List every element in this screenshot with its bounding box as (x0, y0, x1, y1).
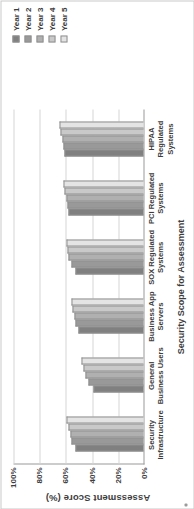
bar (71, 298, 143, 305)
bar (60, 128, 143, 135)
bar (68, 423, 143, 430)
bar (62, 135, 143, 142)
legend-swatch-icon (12, 35, 19, 42)
bar (75, 267, 143, 274)
legend-item[interactable]: Year 1 (11, 7, 20, 42)
x-tick-label: Security Infrastructure (146, 405, 176, 464)
plot-area (13, 109, 144, 464)
bar (78, 326, 144, 333)
legend-item[interactable]: Year 3 (35, 7, 44, 42)
bar (64, 149, 143, 156)
x-axis-title: Security Scope for Assessment (175, 109, 185, 464)
legend-swatch-icon (48, 35, 55, 42)
y-tick-label: 60% (61, 467, 70, 483)
legend-swatch-icon (36, 35, 43, 42)
bar (63, 180, 143, 187)
legend-label: Year 1 (11, 7, 20, 31)
legend-swatch-icon (24, 35, 31, 42)
bar-group (13, 227, 143, 286)
bar (72, 305, 143, 312)
y-tick-label: 20% (113, 467, 122, 483)
y-tick-label: 0% (140, 467, 149, 479)
bar (71, 437, 143, 444)
bar (66, 416, 143, 423)
bar (93, 385, 143, 392)
bar (70, 430, 143, 437)
bar (59, 121, 143, 128)
y-tick-label: 80% (35, 467, 44, 483)
legend-item[interactable]: Year 4 (47, 7, 56, 42)
x-tick-label: Business App Servers (146, 286, 176, 345)
bar-groups (13, 109, 143, 463)
bar (85, 371, 143, 378)
bar (64, 187, 143, 194)
bar (88, 378, 143, 385)
legend: Year 1Year 2Year 3Year 4Year 5 (11, 7, 68, 42)
y-tick-label: 100% (9, 467, 18, 487)
bar-group (13, 404, 143, 463)
bar (74, 312, 143, 319)
x-tick-label: SOX Regulated Systems (146, 227, 176, 286)
chart-screenshot: Assessment Score (%) 0%20%40%60%80%100% … (0, 0, 194, 509)
bar-group (13, 109, 143, 168)
bar (63, 142, 143, 149)
bar (75, 319, 143, 326)
bar (83, 364, 143, 371)
y-axis-title: Assessment Score (%) (1, 490, 193, 506)
y-tick-label: 40% (87, 467, 96, 483)
bar (71, 260, 143, 267)
legend-label: Year 2 (23, 7, 32, 31)
bar (68, 208, 143, 215)
bar (68, 253, 143, 260)
legend-item[interactable]: Year 5 (59, 7, 68, 42)
rotated-chart-canvas: Assessment Score (%) 0%20%40%60%80%100% … (0, 0, 194, 509)
legend-label: Year 4 (47, 7, 56, 31)
bar-group (13, 168, 143, 227)
bar (66, 194, 143, 201)
bar (81, 357, 143, 364)
legend-label: Year 5 (59, 7, 68, 31)
y-axis-tick-labels: 0%20%40%60%80%100% (13, 465, 144, 491)
chart-frame: Assessment Score (%) 0%20%40%60%80%100% … (0, 0, 194, 509)
bar (67, 201, 143, 208)
y-axis-title-text: Assessment Score (%) (45, 493, 149, 504)
legend-label: Year 3 (35, 7, 44, 31)
bar (66, 239, 143, 246)
legend-swatch-icon (60, 35, 67, 42)
x-tick-label: HIPAA Regulated Systems (146, 109, 176, 168)
x-axis-tick-labels: Security InfrastructureGeneral Business … (146, 109, 176, 464)
bar (75, 444, 143, 451)
legend-item[interactable]: Year 2 (23, 7, 32, 42)
bar-group (13, 286, 143, 345)
bar-group (13, 345, 143, 404)
x-tick-label: General Business Users (146, 346, 176, 405)
bar (67, 246, 143, 253)
corner-speck (184, 503, 187, 506)
x-tick-label: PCI Regulated Systems (146, 168, 176, 227)
